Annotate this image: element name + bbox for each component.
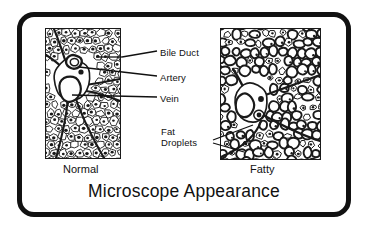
page-title: Microscope Appearance <box>0 181 368 202</box>
caption-fatty: Fatty <box>250 163 274 175</box>
label-artery: Artery <box>160 72 186 83</box>
label-vein: Vein <box>160 93 179 104</box>
normal-tissue-illustration <box>46 29 120 158</box>
fatty-tissue-illustration <box>221 29 320 159</box>
panel-fatty-tissue <box>220 28 321 160</box>
label-fat-droplets: Fat Droplets <box>161 126 221 148</box>
label-fat-droplets-line2: Droplets <box>161 137 221 148</box>
panel-normal-tissue <box>45 28 121 159</box>
figure-root: Bile Duct Artery Vein Fat Droplets Norma… <box>0 0 368 232</box>
caption-normal: Normal <box>63 163 98 175</box>
label-fat-droplets-line1: Fat <box>161 126 221 137</box>
label-bile-duct: Bile Duct <box>160 47 199 58</box>
